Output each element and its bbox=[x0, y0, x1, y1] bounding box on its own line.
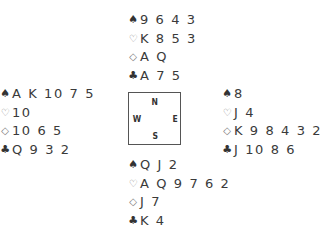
heart-icon: ♡ bbox=[128, 175, 140, 194]
compass-east-label: E bbox=[172, 114, 177, 124]
diamond-icon: ◇ bbox=[222, 122, 234, 141]
club-icon: ♣ bbox=[128, 212, 140, 230]
compass-box: N W E S bbox=[128, 92, 181, 145]
north-hearts: K 8 5 3 bbox=[140, 30, 197, 49]
south-hearts: A Q 9 7 6 2 bbox=[140, 175, 230, 194]
south-clubs: K 4 bbox=[140, 212, 166, 230]
north-clubs: A 7 5 bbox=[140, 67, 182, 86]
compass-west-label: W bbox=[133, 114, 141, 124]
east-clubs: J 10 8 6 bbox=[234, 141, 296, 160]
south-diamonds: J 7 bbox=[140, 193, 161, 212]
west-diamonds: 10 6 5 bbox=[12, 122, 63, 141]
heart-icon: ♡ bbox=[128, 30, 140, 49]
west-hearts: 10 bbox=[12, 104, 32, 123]
heart-icon: ♡ bbox=[222, 104, 234, 123]
north-diamonds: A Q bbox=[140, 48, 168, 67]
west-clubs: Q 9 3 2 bbox=[12, 141, 71, 160]
spade-icon: ♠ bbox=[128, 156, 140, 175]
spade-icon: ♠ bbox=[128, 11, 140, 30]
east-spades: 8 bbox=[234, 85, 244, 104]
north-spades: 9 6 4 3 bbox=[140, 11, 197, 30]
club-icon: ♣ bbox=[222, 141, 234, 160]
east-diamonds: K 9 8 4 3 2 bbox=[234, 122, 322, 141]
spade-icon: ♠ bbox=[0, 85, 12, 104]
east-hearts: J 4 bbox=[234, 104, 255, 123]
club-icon: ♣ bbox=[0, 141, 12, 160]
diamond-icon: ◇ bbox=[128, 48, 140, 67]
diamond-icon: ◇ bbox=[128, 193, 140, 212]
west-spades: A K 10 7 5 bbox=[12, 85, 95, 104]
compass-south-label: S bbox=[152, 131, 158, 141]
diamond-icon: ◇ bbox=[0, 122, 12, 141]
compass-north-label: N bbox=[152, 97, 158, 107]
south-spades: Q J 2 bbox=[140, 156, 179, 175]
club-icon: ♣ bbox=[128, 67, 140, 86]
spade-icon: ♠ bbox=[222, 85, 234, 104]
heart-icon: ♡ bbox=[0, 104, 12, 123]
